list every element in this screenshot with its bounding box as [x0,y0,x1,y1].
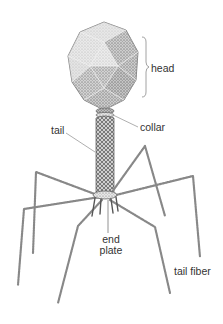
label-collar: collar [140,122,165,133]
tail-sheath [96,116,114,194]
label-tail: tail [51,125,64,136]
tail-leader-line [66,133,95,152]
label-end-plate: end plate [98,234,124,256]
label-head: head [151,63,174,74]
label-end-plate-line2: plate [98,245,124,256]
label-tail-fiber: tail fiber [174,266,211,277]
collar-leader-line [113,115,138,127]
head-bracket [142,37,149,97]
head-capsid [68,22,138,110]
